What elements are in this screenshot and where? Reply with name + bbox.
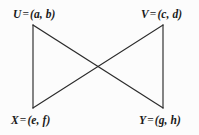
vertex-label-X: X=(e, f) <box>11 115 50 127</box>
edge-group <box>33 25 163 108</box>
figure-canvas: U=(a, b) V=(c, d) X=(e, f) Y=(g, h) <box>0 0 199 135</box>
vertex-label-V: V=(c, d) <box>141 9 182 21</box>
vertex-label-U: U=(a, b) <box>13 9 56 21</box>
vertex-coordinates-Y: (g, h) <box>155 114 181 126</box>
equals-sign-U: = <box>21 8 30 20</box>
vertex-coordinates-U: (a, b) <box>30 8 56 20</box>
equals-sign-Y: = <box>146 114 155 126</box>
vertex-label-Y: Y=(g, h) <box>139 115 181 127</box>
vertex-name-V: V <box>141 8 149 20</box>
vertex-name-X: X <box>11 114 19 126</box>
vertex-coordinates-V: (c, d) <box>157 8 182 20</box>
vertex-coordinates-X: (e, f) <box>27 114 50 126</box>
